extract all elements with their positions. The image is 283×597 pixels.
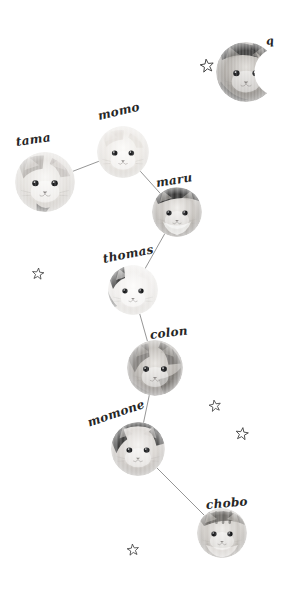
cat-node-thomas[interactable] — [108, 265, 158, 315]
cat-portrait-momo — [97, 126, 149, 178]
cat-node-chobo[interactable] — [197, 508, 247, 558]
cat-label-q: q — [265, 35, 274, 47]
cat-portrait-momone — [111, 422, 165, 476]
cat-label-momo: momo — [97, 101, 141, 122]
cat-label-colon: colon — [149, 324, 188, 341]
decorative-star-icon — [207, 398, 222, 413]
cat-portrait-q — [216, 42, 276, 102]
cat-portrait-chobo — [197, 508, 247, 558]
constellation-canvas: qmomotamamaruthomascolonmomonechobo — [0, 0, 283, 597]
constellation-edge-thomas-colon — [140, 313, 148, 342]
cat-portrait-colon — [127, 340, 183, 396]
cat-node-colon[interactable] — [127, 340, 183, 396]
cat-portrait-maru — [152, 187, 202, 237]
decorative-star-icon — [126, 543, 140, 557]
decorative-star-icon — [199, 58, 216, 75]
cat-portrait-thomas — [108, 265, 158, 315]
cat-node-tama[interactable] — [15, 152, 75, 212]
cat-label-chobo: chobo — [205, 495, 248, 511]
cat-node-q[interactable] — [216, 42, 276, 102]
cat-node-momone[interactable] — [111, 422, 165, 476]
cat-label-tama: tama — [15, 131, 51, 148]
cat-label-thomas: thomas — [102, 243, 155, 265]
cat-node-maru[interactable] — [152, 187, 202, 237]
cat-portrait-tama — [15, 152, 75, 212]
decorative-star-icon — [234, 426, 250, 442]
decorative-star-icon — [31, 267, 45, 281]
cat-node-momo[interactable] — [97, 126, 149, 178]
constellation-edge-tama-momo — [72, 161, 100, 172]
